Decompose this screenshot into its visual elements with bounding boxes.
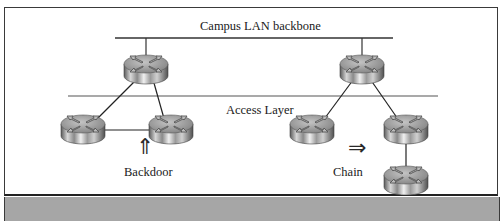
chain-arrow-icon: ⇒ — [348, 137, 366, 159]
backdoor-arrow-icon: ⇑ — [136, 136, 154, 158]
backbone-label: Campus LAN backbone — [200, 19, 321, 34]
access-layer-label: Access Layer — [226, 103, 294, 118]
router-icon — [149, 115, 193, 144]
router-icon — [61, 115, 105, 144]
router-icon — [340, 55, 384, 84]
router-icon — [384, 115, 428, 144]
backdoor-label: Backdoor — [124, 165, 173, 180]
router-icon — [124, 55, 168, 84]
router-icon — [384, 166, 428, 195]
chain-label: Chain — [333, 165, 363, 180]
router-icon — [290, 115, 334, 144]
